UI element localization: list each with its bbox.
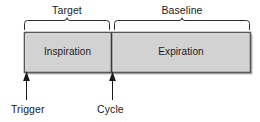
- respiratory-cycle-diagram: Target Baseline Inspiration Expiration T…: [0, 0, 260, 122]
- cycle-marker: [109, 72, 116, 101]
- baseline-bracket: [115, 18, 250, 30]
- trigger-marker-label: Trigger: [11, 104, 45, 115]
- baseline-bracket-label: Baseline: [114, 5, 250, 16]
- target-bracket: [25, 18, 110, 30]
- inspiration-phase-label: Inspiration: [24, 47, 111, 57]
- trigger-marker: [23, 72, 30, 101]
- expiration-phase-label: Expiration: [112, 47, 250, 57]
- cycle-marker-label: Cycle: [97, 104, 124, 115]
